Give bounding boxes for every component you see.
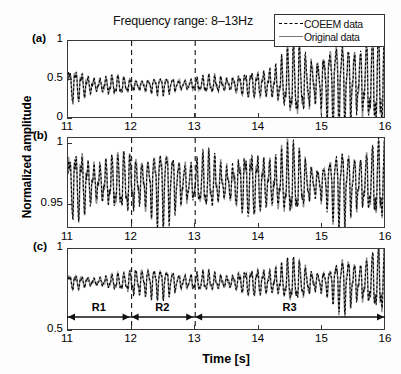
x-tickmark-a-3	[258, 113, 259, 118]
y-tickmark-a-2	[67, 40, 72, 41]
solid-line-swatch-icon	[278, 31, 304, 42]
x-tick-c-5: 16	[372, 332, 398, 344]
x-tick-b-1: 12	[118, 230, 144, 242]
chart-title: Frequency range: 8–13Hz	[88, 14, 278, 28]
y-axis-label: Normalized amplitude	[20, 67, 34, 247]
region-label-r3: R3	[274, 301, 306, 313]
x-tick-a-0: 11	[54, 120, 80, 132]
x-tickmark-c-3	[258, 325, 259, 330]
x-tick-b-3: 14	[245, 230, 271, 242]
legend-label-original: Original data	[304, 31, 360, 43]
x-tickmark-b-4	[321, 223, 322, 228]
legend: COEEM data Original data	[274, 14, 385, 47]
x-tickmark-b-2	[194, 223, 195, 228]
x-tick-b-5: 16	[372, 230, 398, 242]
y-tick-a-2: 1	[10, 32, 63, 44]
legend-item-coeem: COEEM data	[278, 17, 381, 30]
y-tick-c-1: 1	[10, 240, 63, 252]
y-tickmark-a-0	[67, 118, 72, 119]
y-tickmark-c-1	[67, 248, 72, 249]
legend-item-original: Original data	[278, 30, 381, 43]
series-original-data	[68, 249, 385, 318]
figure-root: Frequency range: 8–13Hz Normalized ampli…	[0, 0, 401, 374]
x-tickmark-a-4	[321, 113, 322, 118]
x-tickmark-a-2	[194, 113, 195, 118]
plot-panel-b	[67, 137, 385, 228]
x-tick-c-0: 11	[54, 332, 80, 344]
plot-panel-a	[67, 40, 385, 118]
x-tick-a-5: 16	[372, 120, 398, 132]
region-label-r2: R2	[146, 301, 178, 313]
series-coeem-data	[68, 249, 385, 314]
x-tick-c-1: 12	[118, 332, 144, 344]
plot-panel-c	[67, 248, 385, 330]
y-tickmark-c-0	[67, 330, 72, 331]
x-tick-c-3: 14	[245, 332, 271, 344]
dashed-line-swatch-icon	[278, 18, 304, 29]
y-tick-a-1: 0.5	[10, 71, 63, 83]
y-tick-b-1: 1	[10, 135, 63, 147]
y-tickmark-b-1	[67, 143, 72, 144]
region-label-r1: R1	[83, 301, 115, 313]
x-tick-c-4: 15	[308, 332, 334, 344]
x-tick-b-4: 15	[308, 230, 334, 242]
x-tickmark-c-1	[131, 325, 132, 330]
y-tickmark-b-0	[67, 204, 72, 205]
x-tick-a-2: 13	[181, 120, 207, 132]
legend-label-coeem: COEEM data	[304, 18, 363, 30]
y-tick-b-0: 0.95	[10, 196, 63, 208]
x-tickmark-b-3	[258, 223, 259, 228]
x-tick-a-3: 14	[245, 120, 271, 132]
x-tickmark-b-1	[131, 223, 132, 228]
x-tick-a-4: 15	[308, 120, 334, 132]
x-tick-c-2: 13	[181, 332, 207, 344]
y-tickmark-a-1	[67, 79, 72, 80]
x-axis-label: Time [s]	[67, 352, 385, 366]
x-tick-b-2: 13	[181, 230, 207, 242]
x-tick-a-1: 12	[118, 120, 144, 132]
x-tickmark-a-1	[131, 113, 132, 118]
series-coeem-data	[68, 138, 385, 228]
x-tickmark-c-2	[194, 325, 195, 330]
x-tickmark-c-4	[321, 325, 322, 330]
